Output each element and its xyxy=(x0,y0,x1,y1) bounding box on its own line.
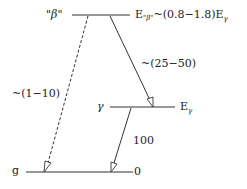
gamma-level-energy: Eγ xyxy=(180,101,192,112)
ground-level-energy: 0 xyxy=(134,166,141,177)
arrowhead-beta-ground xyxy=(44,161,51,172)
beta-energy-sub: "β" xyxy=(143,14,154,22)
beta-energy-prefix: E xyxy=(135,8,143,21)
beta-level-label: "β" xyxy=(46,9,62,20)
beta-energy-expr: ~(0.8−1.8)E xyxy=(154,8,224,21)
arrowhead-gamma-ground xyxy=(111,162,117,172)
transition-label-gamma-ground: 100 xyxy=(133,135,154,146)
transition-label-beta-gamma: ~(25−50) xyxy=(141,58,196,69)
beta-energy-expr-sub: γ xyxy=(224,15,228,23)
beta-level-energy: E"β"~(0.8−1.8)Eγ xyxy=(135,9,228,20)
transition-gamma-ground xyxy=(114,108,131,163)
gamma-energy: E xyxy=(180,100,188,113)
ground-level-label: g xyxy=(12,165,19,176)
transition-label-beta-ground: ~(1−10) xyxy=(12,88,60,99)
arrowhead-beta-gamma xyxy=(147,97,153,107)
gamma-level-label: γ xyxy=(97,101,104,112)
gamma-energy-sub: γ xyxy=(188,107,192,115)
